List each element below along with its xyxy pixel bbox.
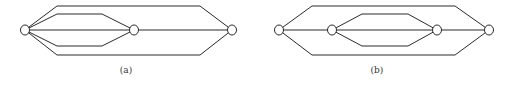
node-b3: [433, 25, 442, 35]
edge-b-inner-bottom: [332, 30, 437, 46]
edge-a-inner-bottom: [25, 30, 134, 46]
figure-a: (a): [21, 6, 237, 75]
edge-a-outer-top: [25, 6, 232, 30]
figure-a-caption: (a): [120, 65, 132, 75]
edge-a-inner-top: [25, 14, 134, 30]
figure-b: (b): [275, 6, 494, 75]
edge-b-outer-top: [279, 6, 489, 30]
node-a1: [21, 25, 30, 35]
graph-diagram: (a) (b): [0, 0, 513, 85]
edge-b-inner-top: [332, 14, 437, 30]
edge-a-outer-bottom: [25, 30, 232, 55]
node-b1: [275, 25, 284, 35]
node-a3: [228, 25, 237, 35]
figure-a-edges: [25, 6, 232, 55]
node-b2: [328, 25, 337, 35]
node-b4: [485, 25, 494, 35]
figure-b-edges: [279, 6, 489, 55]
figure-b-caption: (b): [371, 65, 384, 75]
node-a2: [130, 25, 139, 35]
edge-b-outer-bottom: [279, 30, 489, 55]
